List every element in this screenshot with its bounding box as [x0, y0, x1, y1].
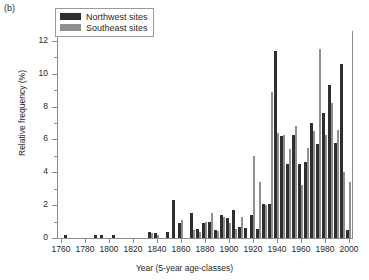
x-tick [205, 239, 206, 243]
bar [259, 182, 261, 238]
bar-series-layer [58, 31, 352, 238]
bar [172, 200, 174, 238]
bar [301, 185, 303, 238]
bar [307, 148, 309, 238]
bar [199, 232, 201, 238]
bar [241, 217, 243, 238]
bar [157, 235, 159, 238]
y-tick-label: 2 [14, 199, 48, 209]
bar [229, 223, 231, 238]
bar [193, 230, 195, 238]
x-tick [61, 239, 62, 243]
bar [151, 233, 153, 238]
legend-label-southeast: Southeast sites [86, 23, 148, 33]
x-tick [85, 239, 86, 243]
legend-item-northwest: Northwest sites [60, 11, 148, 22]
x-axis-label: Year (5-year age-classes) [0, 263, 369, 273]
x-tick [181, 239, 182, 243]
bar [337, 130, 339, 238]
x-tick-label: 2000 [329, 244, 369, 254]
bar [265, 205, 267, 238]
bar [325, 135, 327, 239]
bar [211, 213, 213, 238]
x-tick [325, 239, 326, 243]
bar [112, 235, 114, 238]
bar [235, 229, 237, 238]
x-tick [349, 239, 350, 243]
axis-line-right [352, 31, 353, 239]
bar [94, 235, 96, 238]
y-tick-label: 0 [14, 232, 48, 242]
x-tick [277, 239, 278, 243]
legend-swatch-northwest-icon [60, 13, 81, 20]
panel-label: (b) [4, 3, 15, 13]
legend-item-southeast: Southeast sites [60, 22, 148, 33]
bar [100, 235, 102, 238]
bar [289, 149, 291, 238]
y-tick-label: 8 [14, 101, 48, 111]
figure-panel: (b) Relative frequency (%) Year (5-year … [0, 0, 369, 280]
bar [181, 220, 183, 238]
bar [217, 231, 219, 238]
x-tick [229, 239, 230, 243]
y-tick-label: 10 [14, 68, 48, 78]
x-tick [157, 239, 158, 243]
legend: Northwest sites Southeast sites [55, 8, 154, 37]
bar [253, 156, 255, 238]
bar [166, 232, 168, 238]
plot-area [58, 31, 352, 238]
bar [205, 222, 207, 238]
bar [319, 49, 321, 238]
bar [313, 131, 315, 238]
legend-label-northwest: Northwest sites [86, 12, 148, 22]
bar [283, 135, 285, 239]
bar [331, 103, 333, 238]
bar [343, 172, 345, 238]
y-tick-label: 4 [14, 166, 48, 176]
bar [271, 92, 273, 238]
legend-swatch-southeast-icon [60, 24, 81, 31]
x-tick [133, 239, 134, 243]
axis-line-bottom [57, 238, 353, 239]
bar [349, 182, 351, 238]
bar [244, 228, 246, 238]
y-tick-label: 6 [14, 133, 48, 143]
bar [223, 217, 225, 238]
bar [64, 235, 66, 238]
x-tick [301, 239, 302, 243]
x-tick [253, 239, 254, 243]
y-tick-label: 12 [14, 35, 48, 45]
bar [295, 126, 297, 238]
bar [277, 133, 279, 238]
x-tick [109, 239, 110, 243]
